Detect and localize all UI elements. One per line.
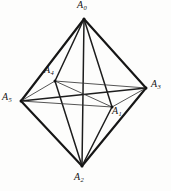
vertex-subscript: 4	[51, 69, 54, 76]
vertex-dot-a5	[20, 100, 23, 103]
edge-a5-a1	[21, 101, 112, 107]
vertex-dot-a4	[54, 80, 57, 83]
edge-a0-a2-vertical-axis	[82, 19, 84, 166]
polytope-figure: A0A1A2A3A4A5	[0, 0, 171, 191]
vertex-label-a2: A2	[74, 172, 84, 182]
vertex-letter: A	[77, 0, 83, 10]
vertex-letter: A	[44, 64, 50, 75]
edges-group	[21, 19, 146, 166]
vertex-letter: A	[151, 78, 157, 89]
edge-a5-a2	[21, 101, 82, 166]
vertex-label-a1: A1	[112, 106, 122, 116]
vertex-subscript: 2	[81, 176, 84, 183]
edge-a0-a5	[21, 19, 84, 101]
vertex-subscript: 5	[9, 96, 12, 103]
vertex-subscript: 1	[119, 110, 122, 117]
vertex-letter: A	[74, 171, 80, 182]
vertex-letter: A	[2, 91, 8, 102]
polytope-diagram-canvas	[0, 0, 171, 191]
vertex-dot-a3	[145, 87, 148, 90]
vertex-label-a0: A0	[77, 0, 87, 10]
vertex-dot-a2	[81, 165, 84, 168]
edge-a3-a2	[82, 88, 146, 166]
vertex-label-a4: A4	[44, 65, 54, 75]
vertex-subscript: 0	[84, 4, 87, 11]
vertex-label-a5: A5	[2, 92, 12, 102]
edge-a0-a3	[84, 19, 146, 88]
vertex-dot-a0	[83, 18, 86, 21]
edge-a4-a2	[55, 81, 82, 166]
vertex-letter: A	[112, 105, 118, 116]
vertex-subscript: 3	[158, 83, 161, 90]
vertex-label-a3: A3	[151, 79, 161, 89]
